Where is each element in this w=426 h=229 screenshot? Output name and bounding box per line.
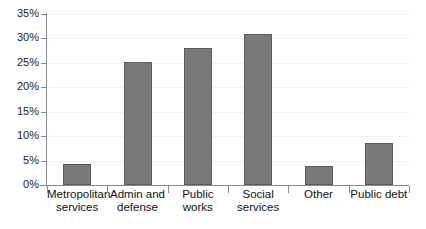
gridline (47, 38, 409, 39)
gridline (47, 87, 409, 88)
y-axis-tick-label: 0% (0, 179, 39, 190)
x-axis-line (40, 185, 409, 186)
y-axis-tick-label: 35% (0, 8, 39, 19)
bar (244, 34, 272, 185)
y-axis-tick-label: 20% (0, 81, 39, 92)
x-axis-category-label: Admin and defense (107, 188, 167, 214)
x-axis-tick (47, 186, 48, 193)
x-axis-tick (409, 186, 410, 193)
y-axis-tick-label: 30% (0, 32, 39, 43)
y-axis-tick-label: 10% (0, 130, 39, 141)
x-axis-category-label: Public debt (349, 188, 409, 201)
y-axis-tick-label: 25% (0, 57, 39, 68)
bar (184, 48, 212, 185)
x-axis-category-label: Public works (168, 188, 228, 214)
gridline (47, 63, 409, 64)
gridline (47, 112, 409, 113)
bar (305, 166, 333, 185)
x-axis-category-label: Social services (228, 188, 288, 214)
gridline (47, 161, 409, 162)
gridline (47, 136, 409, 137)
bar-chart: 0%5%10%15%20%25%30%35% Metropolitan serv… (0, 0, 426, 229)
bar (124, 62, 152, 185)
y-axis-tick-label: 15% (0, 106, 39, 117)
bar (63, 164, 91, 185)
plot-area (47, 14, 409, 185)
x-axis-category-label: Metropolitan services (47, 188, 107, 214)
y-axis-tick-label: 5% (0, 155, 39, 166)
gridline (47, 14, 409, 15)
x-axis-category-label: Other (288, 188, 348, 201)
bar (365, 143, 393, 185)
